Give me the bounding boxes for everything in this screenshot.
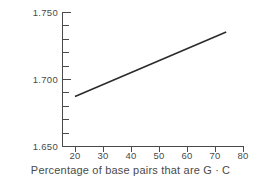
y-tick-minor [63, 66, 69, 67]
y-tick-label-1750: 1.750 [33, 7, 58, 18]
y-tick-major [63, 12, 71, 13]
y-tick-minor [63, 92, 69, 93]
x-tick-label-60: 60 [175, 150, 199, 161]
y-axis-tick-labels: 1.750 1.700 1.650 [0, 0, 58, 185]
x-tick-label-70: 70 [203, 150, 227, 161]
y-tick-minor [63, 106, 69, 107]
x-tick-label-40: 40 [119, 150, 143, 161]
y-tick-label-1650: 1.650 [33, 141, 58, 152]
x-tick-label-30: 30 [91, 150, 115, 161]
y-tick-label-1700: 1.700 [33, 74, 58, 85]
x-axis-title: Percentage of base pairs that are G·C [0, 164, 261, 176]
y-tick-minor [63, 133, 69, 134]
y-tick-minor [63, 39, 69, 40]
chart-screenshot: 1.750 1.700 1.650 ρ(g/cm3) 20 30 40 [0, 0, 261, 185]
y-tick-minor [63, 25, 69, 26]
y-tick-major [63, 79, 71, 80]
middot-icon: · [212, 164, 222, 176]
y-tick-minor [63, 52, 69, 53]
x-tick-label-50: 50 [147, 150, 171, 161]
y-tick-major [63, 146, 71, 147]
plot-area [62, 12, 243, 146]
y-tick-minor [63, 119, 69, 120]
x-tick-label-20: 20 [63, 150, 87, 161]
x-tick-label-80: 80 [231, 150, 255, 161]
x-axis-title-suffix: C [222, 164, 230, 176]
x-axis-title-prefix: Percentage of base pairs that are G [31, 164, 212, 176]
